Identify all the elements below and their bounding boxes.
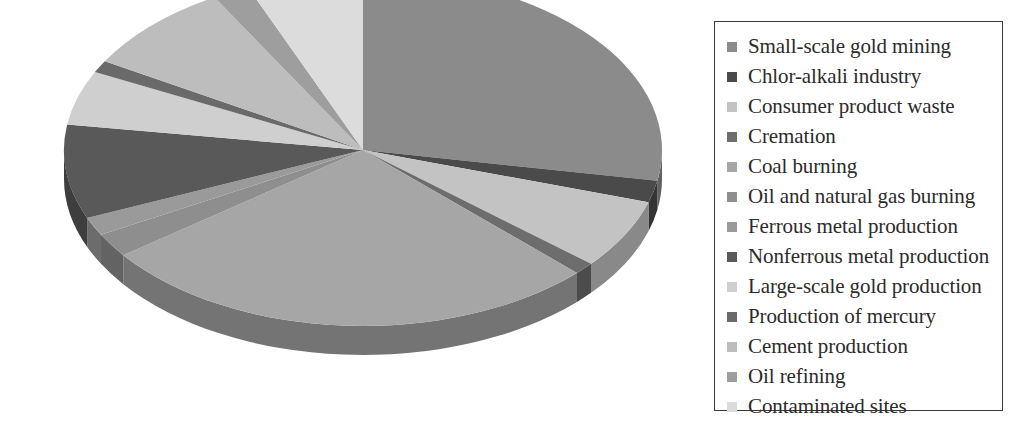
- legend-item-label: Cement production: [748, 336, 908, 357]
- legend-box: Small-scale gold miningChlor-alkali indu…: [714, 21, 1003, 411]
- legend-item-label: Nonferrous metal production: [748, 246, 989, 267]
- legend-item[interactable]: Cement production: [715, 331, 1002, 361]
- legend-item[interactable]: Chlor-alkali industry: [715, 61, 1002, 91]
- legend-item-label: Large-scale gold production: [748, 276, 982, 297]
- legend-swatch-icon: [727, 312, 737, 322]
- legend-swatch-icon: [727, 372, 737, 382]
- legend-item-label: Oil and natural gas burning: [748, 186, 975, 207]
- legend-item-label: Production of mercury: [748, 306, 936, 327]
- legend-item[interactable]: Cremation: [715, 121, 1002, 151]
- legend-item[interactable]: Consumer product waste: [715, 91, 1002, 121]
- legend-item-label: Cremation: [748, 126, 836, 147]
- legend-item-label: Coal burning: [748, 156, 857, 177]
- legend-item-label: Small-scale gold mining: [748, 36, 951, 57]
- legend-item[interactable]: Ferrous metal production: [715, 211, 1002, 241]
- pie-chart-canvas: [0, 0, 700, 441]
- legend-item[interactable]: Coal burning: [715, 151, 1002, 181]
- legend-item[interactable]: Large-scale gold production: [715, 271, 1002, 301]
- legend-item[interactable]: Oil and natural gas burning: [715, 181, 1002, 211]
- legend-swatch-icon: [727, 222, 737, 232]
- legend-swatch-icon: [727, 162, 737, 172]
- legend-item-label: Contaminated sites: [748, 396, 907, 417]
- pie-chart-svg: [0, 0, 700, 441]
- pie-chart-figure: Small-scale gold miningChlor-alkali indu…: [0, 0, 1025, 441]
- legend-item-label: Consumer product waste: [748, 96, 955, 117]
- legend-swatch-icon: [727, 252, 737, 262]
- legend-item[interactable]: Small-scale gold mining: [715, 31, 1002, 61]
- legend-swatch-icon: [727, 342, 737, 352]
- legend-item[interactable]: Production of mercury: [715, 301, 1002, 331]
- legend-item[interactable]: Nonferrous metal production: [715, 241, 1002, 271]
- legend-swatch-icon: [727, 42, 737, 52]
- legend-swatch-icon: [727, 402, 737, 412]
- legend-swatch-icon: [727, 72, 737, 82]
- legend-swatch-icon: [727, 282, 737, 292]
- legend-item-label: Chlor-alkali industry: [748, 66, 921, 87]
- legend-item[interactable]: Contaminated sites: [715, 391, 1002, 421]
- legend-swatch-icon: [727, 192, 737, 202]
- legend-item[interactable]: Oil refining: [715, 361, 1002, 391]
- legend-item-label: Ferrous metal production: [748, 216, 958, 237]
- legend-item-label: Oil refining: [748, 366, 845, 387]
- pie-slice[interactable]: [363, 0, 662, 181]
- legend-swatch-icon: [727, 102, 737, 112]
- legend-swatch-icon: [727, 132, 737, 142]
